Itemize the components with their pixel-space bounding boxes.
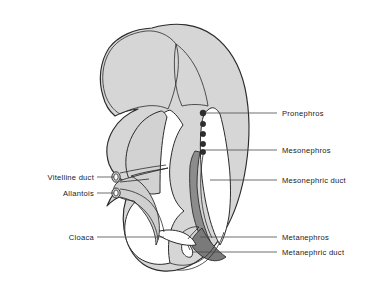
label-metanephros: Metanephros	[282, 233, 329, 242]
label-mesonephric-duct: Mesonephric duct	[282, 176, 347, 185]
embryo-nephric-diagram: Developing nephric system of a vertebrat…	[0, 0, 388, 285]
label-cloaca: Cloaca	[69, 233, 95, 242]
nephric-dot-5	[200, 149, 205, 154]
diagram-canvas: Developing nephric system of a vertebrat…	[0, 0, 388, 285]
allantois-lumen	[114, 190, 118, 196]
label-allantois: Allantois	[63, 189, 94, 198]
nephric-dot-4	[200, 141, 205, 146]
labels-left: Vitelline duct Allantois Cloaca	[48, 173, 95, 242]
labels-right: Pronephros Mesonephros Mesonephric duct …	[282, 109, 347, 257]
nephric-dot-3	[200, 131, 205, 136]
vitelline-duct-lumen	[114, 174, 118, 180]
label-vitelline-duct: Vitelline duct	[48, 173, 95, 182]
label-mesonephros: Mesonephros	[282, 146, 331, 155]
nephric-dot-2	[200, 121, 205, 126]
label-metanephric-duct: Metanephric duct	[282, 248, 345, 257]
label-pronephros: Pronephros	[282, 109, 324, 118]
